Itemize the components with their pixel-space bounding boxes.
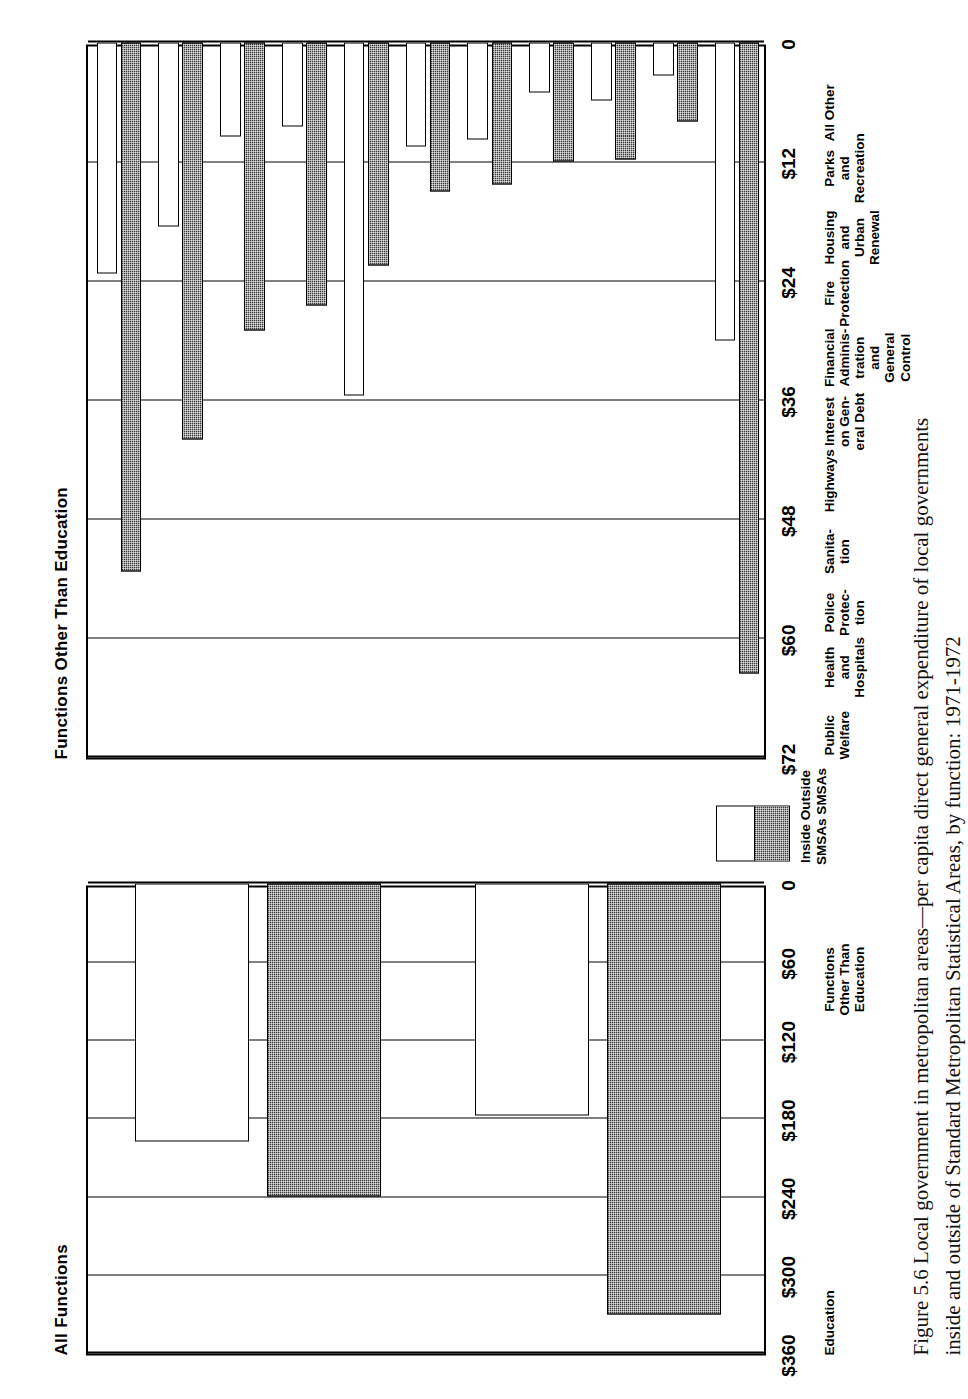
legend: Inside Outside SMSAs SMSAs [716,765,856,875]
category-label: Education [822,1290,837,1355]
category-label: Health and Hospitals [822,636,867,697]
bar-inside-smsas [306,42,327,305]
bar-outside-smsas [529,42,550,92]
legend-label: Inside Outside SMSAs SMSAs [798,751,829,881]
category-label: Housing and Urban Renewal [822,210,882,265]
bar-outside-smsas [591,42,612,100]
figure-caption-line-2: inside and outside of Standard Metropoli… [938,15,968,1355]
gridline [88,637,764,638]
bar-inside-smsas [182,42,203,439]
panel-title-all-functions: All Functions [52,1243,72,1355]
axis-tick-label: 0 [778,39,800,50]
bar-inside-smsas [430,42,451,191]
bar-outside-smsas [715,42,736,340]
bar-inside-smsas [615,42,636,159]
plot-area-all-functions [86,885,766,1355]
axis-tick-label: $24 [778,266,800,298]
bar-outside-smsas [406,42,427,146]
axis-tick-label: $12 [778,147,800,179]
panel-all-functions: All Functions 0$60$120$180$240$300$360 E… [52,885,872,1355]
category-label: Functions Other Than Education [822,943,867,1015]
category-label: Interest on Gen- eral Debt [822,392,867,450]
bar-inside-smsas [739,42,760,673]
bar-inside-smsas [267,883,381,1196]
bar-inside-smsas [368,42,389,265]
axis-tick-label: $120 [778,1021,800,1063]
category-label: Financial Adminis- tration and General C… [822,326,913,388]
bar-outside-smsas [97,42,118,273]
bar-outside-smsas [220,42,241,136]
bar-inside-smsas [677,42,698,121]
category-label: Sanita- tion [822,529,852,574]
figure-caption-line-1: Figure 5.6 Local government in metropoli… [906,15,936,1355]
axis-tick-label: 0 [778,880,800,891]
category-label: Highways [822,449,837,512]
axis-tick-label: $300 [778,1256,800,1298]
axis-tick-label: $48 [778,505,800,537]
bar-inside-smsas [492,42,513,184]
axis-tick-label: $60 [778,624,800,656]
category-label: Police Protec- tion [822,589,867,636]
bar-inside-smsas [553,42,574,161]
axis-tick-label: $60 [778,947,800,979]
bar-outside-smsas [653,42,674,75]
bar-outside-smsas [158,42,179,226]
bar-outside-smsas [467,42,488,139]
bar-outside-smsas [344,42,365,395]
axis-tick-label: $240 [778,1177,800,1219]
axis-tick-label: $180 [778,1099,800,1141]
panel-functions-other: Functions Other Than Education 0$12$24$3… [52,44,872,759]
category-label: Parks and Recreation [822,133,867,203]
legend-swatch-box [716,805,790,861]
axis-tick-label: $360 [778,1334,800,1376]
panel-title-functions-other: Functions Other Than Education [52,487,72,760]
legend-swatch-inside [754,806,789,860]
bar-outside-smsas [282,42,303,126]
bar-inside-smsas [607,883,721,1314]
category-label: All Other [822,84,837,141]
gridline [88,756,764,758]
plot-area-functions-other [86,44,766,759]
bar-inside-smsas [121,42,142,571]
gridline [88,1352,764,1354]
category-label: Fire Protection [822,260,852,327]
bar-outside-smsas [135,883,249,1142]
axis-tick-label: $36 [778,386,800,418]
gridline [88,518,764,519]
bar-inside-smsas [244,42,265,330]
bar-outside-smsas [475,883,589,1115]
